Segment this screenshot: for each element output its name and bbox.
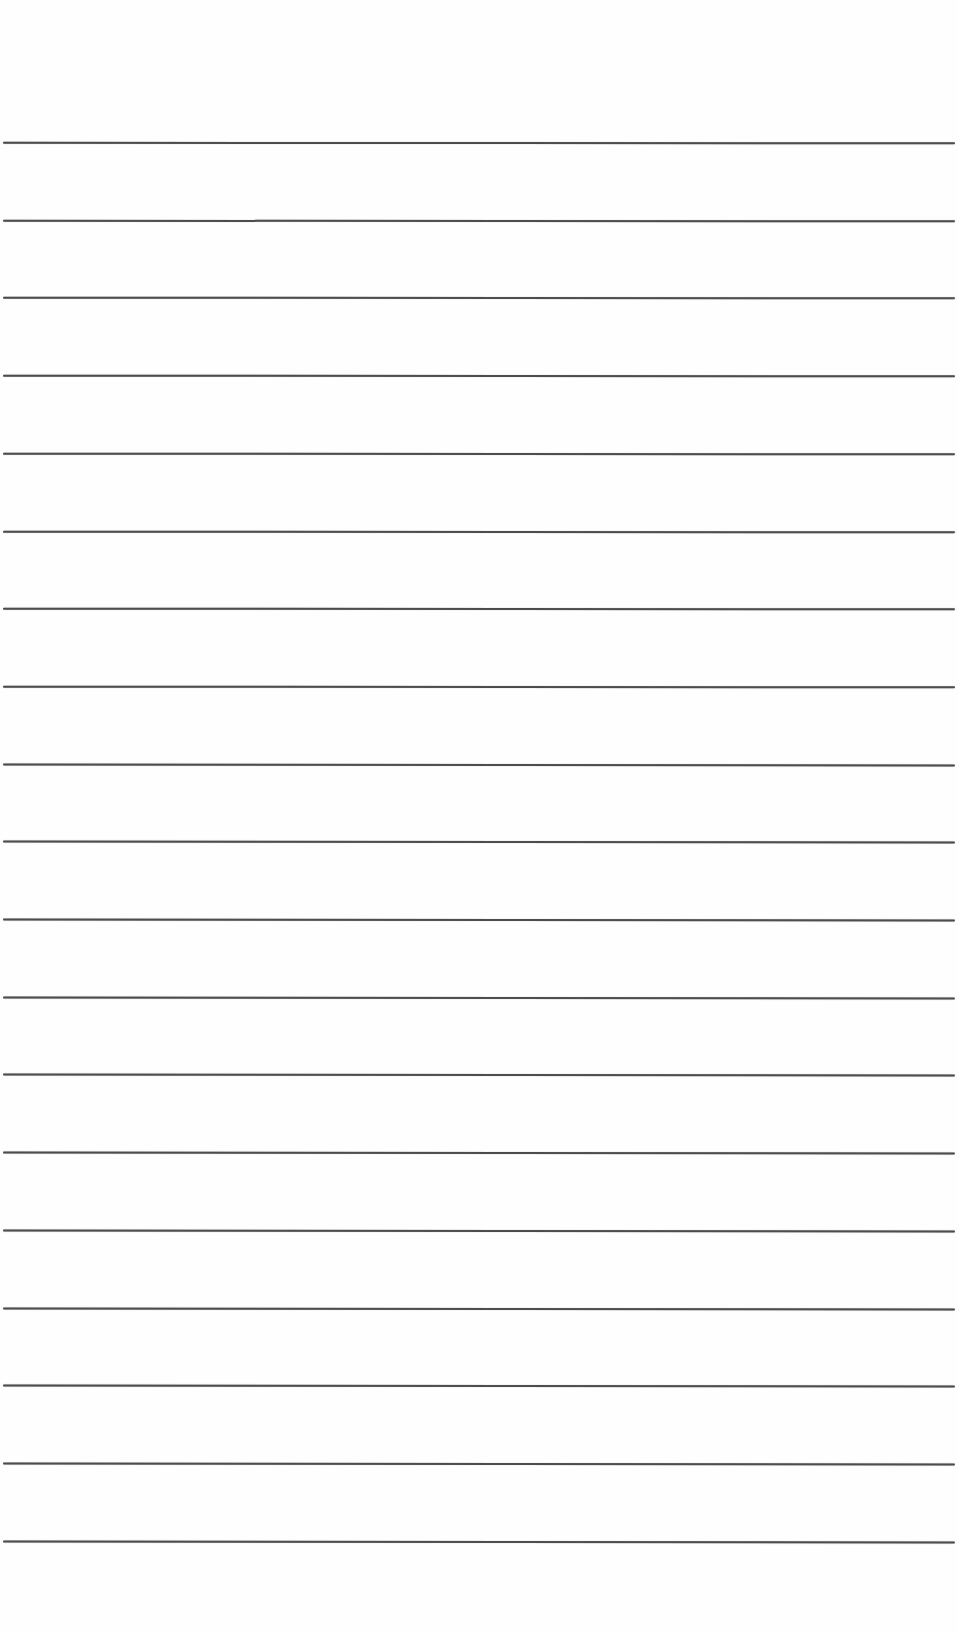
ruled-line	[3, 142, 955, 144]
lined-paper-page	[0, 0, 958, 1632]
ruled-line	[3, 919, 955, 922]
ruled-line	[3, 297, 955, 300]
ruled-line	[3, 531, 955, 534]
ruled-line	[3, 453, 955, 456]
ruled-line	[3, 608, 955, 611]
ruled-line	[3, 764, 955, 767]
ruled-line	[3, 1384, 955, 1387]
ruled-line	[3, 997, 955, 1000]
ruled-line	[3, 1540, 955, 1543]
ruled-line	[3, 220, 955, 223]
ruled-line	[3, 1152, 955, 1155]
ruled-line	[3, 1230, 955, 1233]
ruled-line	[3, 686, 955, 689]
ruled-line	[3, 841, 955, 844]
ruled-line	[3, 375, 955, 378]
ruled-line	[3, 1462, 955, 1465]
ruled-line	[3, 1074, 955, 1077]
ruled-line	[3, 1308, 955, 1311]
